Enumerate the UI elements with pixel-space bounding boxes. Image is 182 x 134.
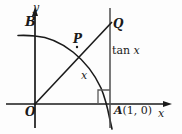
point-a-letter: A <box>114 104 123 117</box>
tan-x-label: tan x <box>112 45 140 56</box>
x-axis-label: x <box>158 108 164 119</box>
tan-variable: x <box>134 44 140 57</box>
point-label-p: P <box>73 33 82 45</box>
point-a-coords: (1, 0) <box>123 104 153 117</box>
x-axis-arrowhead <box>163 101 172 107</box>
point-marker-p <box>76 46 78 48</box>
y-axis-label: y <box>33 2 39 13</box>
tan-word: tan <box>112 44 134 57</box>
trigonometry-figure: y B Q P tan x x O A(1, 0) x <box>0 0 182 134</box>
angle-label-x: x <box>81 70 87 81</box>
point-label-q: Q <box>113 18 123 30</box>
point-label-a: A(1, 0) <box>114 105 152 116</box>
origin-label-o: O <box>25 106 35 118</box>
point-label-b: B <box>25 15 36 28</box>
